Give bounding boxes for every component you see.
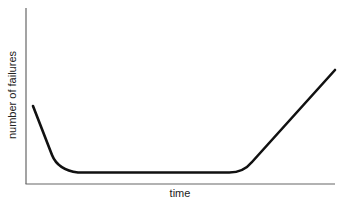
y-axis-label: number of failures [6,51,18,139]
failure-curve [33,70,335,173]
bathtub-chart [0,0,345,209]
x-axis-label: time [170,187,191,199]
